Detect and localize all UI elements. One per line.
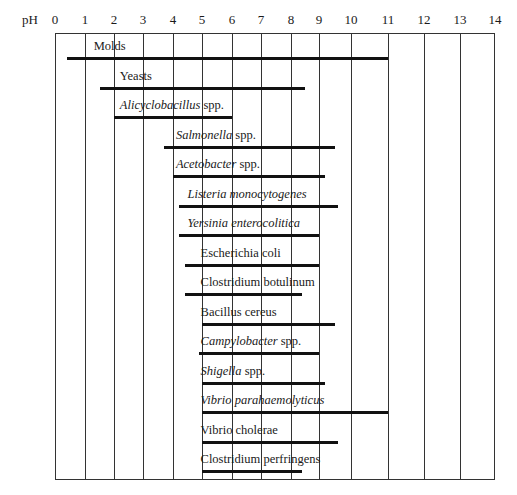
x-tick-label: 3 bbox=[140, 12, 147, 28]
ph-range-bar bbox=[114, 116, 232, 119]
ph-range-chart: pH 01234567891011121314 MoldsYeastsAlicy… bbox=[0, 0, 517, 495]
x-tick-label: 10 bbox=[345, 12, 358, 28]
organism-label: Bacillus cereus bbox=[201, 305, 277, 319]
ph-range-bar bbox=[100, 87, 306, 90]
gridline bbox=[114, 33, 115, 480]
organism-label: Salmonella spp. bbox=[176, 128, 256, 142]
ph-range-bar bbox=[202, 382, 325, 385]
organism-genus: Campylobacter bbox=[201, 334, 278, 348]
x-tick-label: 13 bbox=[454, 12, 467, 28]
organism-genus: Yersinia enterocolitica bbox=[188, 216, 301, 230]
ph-range-bar bbox=[202, 411, 388, 414]
organism-label-text: Escherichia coli bbox=[201, 246, 281, 260]
organism-label-text: spp. bbox=[242, 364, 266, 378]
x-tick-label: 14 bbox=[489, 12, 502, 28]
organism-label: Clostridium perfringens bbox=[201, 452, 321, 466]
organism-label-text: spp. bbox=[232, 128, 256, 142]
organism-label-text: Bacillus cereus bbox=[201, 305, 277, 319]
organism-label: Molds bbox=[94, 39, 126, 53]
x-tick-label: 8 bbox=[288, 12, 295, 28]
organism-label: Clostridium botulinum bbox=[201, 275, 315, 289]
x-tick-label: 5 bbox=[199, 12, 206, 28]
gridline bbox=[424, 33, 425, 480]
organism-label: Vibrio cholerae bbox=[201, 423, 278, 437]
organism-label: Listeria monocytogenes bbox=[188, 187, 307, 201]
x-tick-label: 7 bbox=[258, 12, 265, 28]
ph-range-bar bbox=[164, 146, 335, 149]
x-tick-label: 12 bbox=[418, 12, 431, 28]
gridline bbox=[460, 33, 461, 480]
organism-genus: Vibrio parahaemolyticus bbox=[201, 393, 325, 407]
x-tick-label: 9 bbox=[316, 12, 323, 28]
x-tick-label: 1 bbox=[82, 12, 89, 28]
ph-range-bar bbox=[179, 234, 319, 237]
ph-range-bar bbox=[202, 470, 302, 473]
organism-label: Alicyclobacillus spp. bbox=[120, 98, 224, 112]
organism-genus: Acetobacter bbox=[176, 157, 236, 171]
organism-genus: Salmonella bbox=[176, 128, 232, 142]
organism-label-text: Clostridium perfringens bbox=[201, 452, 321, 466]
ph-range-bar bbox=[202, 441, 338, 444]
x-tick-label: 2 bbox=[111, 12, 118, 28]
x-axis-label: pH bbox=[22, 12, 38, 28]
ph-range-bar bbox=[67, 57, 388, 60]
x-tick-label: 11 bbox=[382, 12, 395, 28]
organism-label-text: spp. bbox=[236, 157, 260, 171]
organism-label: Acetobacter spp. bbox=[176, 157, 260, 171]
x-tick-label: 0 bbox=[52, 12, 59, 28]
organism-genus: Shigella bbox=[201, 364, 242, 378]
organism-label: Escherichia coli bbox=[201, 246, 281, 260]
organism-label: Campylobacter spp. bbox=[201, 334, 302, 348]
ph-range-bar bbox=[202, 323, 335, 326]
organism-label-text: Vibrio cholerae bbox=[201, 423, 278, 437]
ph-range-bar bbox=[185, 293, 303, 296]
organism-label-text: Clostridium botulinum bbox=[201, 275, 315, 289]
x-tick-label: 6 bbox=[229, 12, 236, 28]
gridline bbox=[388, 33, 389, 480]
organism-label: Vibrio parahaemolyticus bbox=[201, 393, 325, 407]
ph-range-bar bbox=[185, 264, 319, 267]
organism-genus: Listeria monocytogenes bbox=[188, 187, 307, 201]
organism-label: Shigella spp. bbox=[201, 364, 266, 378]
ph-range-bar bbox=[179, 205, 338, 208]
organism-label: Yeasts bbox=[120, 69, 152, 83]
organism-label-text: Molds bbox=[94, 39, 126, 53]
organism-label-text: spp. bbox=[200, 98, 224, 112]
ph-range-bar bbox=[173, 175, 325, 178]
x-tick-label: 4 bbox=[170, 12, 177, 28]
gridline bbox=[85, 33, 86, 480]
organism-genus: Alicyclobacillus bbox=[120, 98, 201, 112]
ph-range-bar bbox=[199, 352, 319, 355]
organism-label: Yersinia enterocolitica bbox=[188, 216, 301, 230]
organism-label-text: Yeasts bbox=[120, 69, 152, 83]
organism-label-text: spp. bbox=[278, 334, 302, 348]
